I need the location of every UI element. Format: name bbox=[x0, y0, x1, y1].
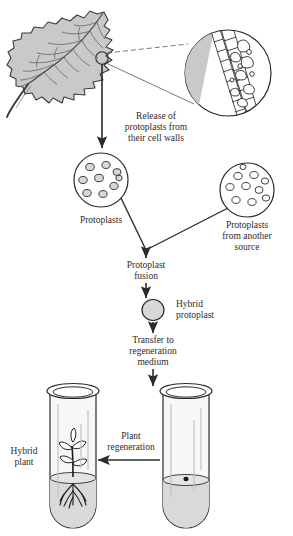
hybrid-plant-label: Hybrid plant bbox=[11, 446, 38, 467]
protoplast-population-right: Protoplasts from another source bbox=[220, 163, 274, 252]
hybrid-plant-label-line1: Hybrid bbox=[11, 446, 38, 456]
test-tube-hybrid-plant bbox=[47, 384, 99, 529]
transfer-step: Transfer to regeneration medium bbox=[129, 322, 177, 386]
leaf-cross-section-inset bbox=[185, 24, 271, 120]
converge-line-right bbox=[146, 208, 228, 250]
hybrid-protoplast-cell bbox=[142, 300, 164, 321]
regeneration-step: Plant regeneration bbox=[98, 431, 160, 460]
protoplasts-right-label-line3: source bbox=[235, 242, 260, 252]
transfer-label-line2: regeneration bbox=[129, 346, 177, 356]
tube-right-rim-inner bbox=[166, 387, 206, 397]
magnification-leader-lines bbox=[106, 44, 194, 104]
leaf-petiole bbox=[7, 84, 28, 117]
release-label-line2: protoplasts from bbox=[125, 122, 188, 132]
leaf-illustration bbox=[7, 11, 194, 117]
hybrid-protoplast-label-line2: protoplast bbox=[176, 310, 214, 320]
converge-line-left bbox=[121, 198, 146, 250]
tube-right-medium bbox=[163, 480, 209, 528]
protoplasts-left-label: Protoplasts bbox=[80, 215, 123, 225]
hybrid-protoplast-label-line1: Hybrid bbox=[176, 299, 203, 309]
release-label-line3: their cell walls bbox=[128, 133, 184, 143]
protoplasts-right-label-line1: Protoplasts bbox=[226, 220, 269, 230]
protoplasts-right-label-line2: from another bbox=[222, 231, 272, 241]
hybrid-plant-label-line2: plant bbox=[15, 457, 34, 467]
fusion-step: Protoplast fusion bbox=[121, 198, 228, 298]
transfer-label-line1: Transfer to bbox=[132, 335, 174, 345]
fusion-label-line1: Protoplast bbox=[127, 260, 166, 270]
fusion-label-line2: fusion bbox=[134, 271, 158, 281]
tube-left-rim-inner bbox=[53, 387, 93, 397]
release-step: Release of protoplasts from their cell w… bbox=[102, 64, 188, 148]
cultured-protoplast bbox=[183, 477, 188, 481]
release-label-line1: Release of bbox=[136, 111, 177, 121]
test-tube-culture bbox=[160, 384, 212, 529]
transfer-label-line3: medium bbox=[137, 357, 169, 367]
hybrid-protoplast-step: Hybrid protoplast bbox=[142, 299, 214, 320]
protoplast-fusion-diagram: Release of protoplasts from their cell w… bbox=[0, 0, 293, 536]
regeneration-label-line1: Plant bbox=[121, 431, 141, 441]
protoplast-population-left: Protoplasts bbox=[74, 153, 128, 225]
regeneration-label-line2: regeneration bbox=[107, 442, 155, 452]
